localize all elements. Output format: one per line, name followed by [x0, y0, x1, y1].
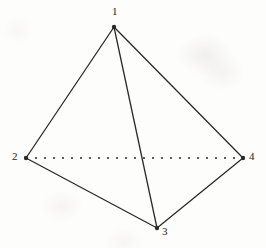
edge-2-3: [26, 158, 157, 228]
vertex-label-2: 2: [12, 151, 18, 162]
tetrahedron-figure: 1 2 3 4: [0, 0, 266, 248]
vertex-marker-3: [155, 226, 159, 230]
vertex-label-4: 4: [249, 151, 255, 162]
vertex-marker-4: [241, 156, 245, 160]
vertex-label-3: 3: [162, 226, 168, 237]
edge-1-3: [114, 27, 157, 228]
tetrahedron-graphic: [0, 0, 266, 248]
edge-3-4: [157, 158, 243, 228]
edge-1-4: [114, 27, 243, 158]
edge-1-2: [26, 27, 114, 158]
vertex-label-1: 1: [112, 6, 118, 17]
vertex-marker-1: [112, 25, 116, 29]
vertex-marker-2: [24, 156, 28, 160]
